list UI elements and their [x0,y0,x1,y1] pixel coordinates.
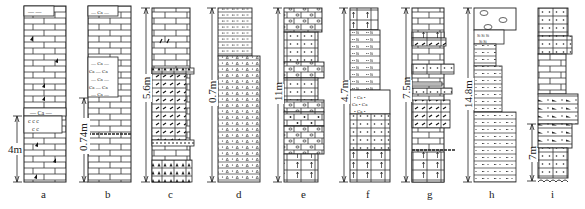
column-e: 11m e [272,8,324,200]
stratigraphic-diagram: •• Si — — — Ca — c c c c c 4m a [0,0,585,209]
column-c: 5.6m c [140,8,194,200]
svg-text:— Ca —: — Ca — [90,92,110,97]
scale-label-i: 7m [526,146,538,161]
column-label-i: i [551,188,554,200]
scale-label-h: 14.8m [462,80,474,108]
column-label-e: e [301,188,306,200]
column-label-a: a [41,188,46,200]
svg-text:c c c: c c c [28,118,39,124]
column-label-b: b [105,188,111,200]
scale-label-g: 7.5m [400,76,412,99]
column-label-f: f [366,188,370,200]
column-h: Si Si Si Si Si 14.8m h [462,8,516,200]
column-i: 7m i [526,8,578,200]
column-label-g: g [427,188,433,200]
svg-text:— —: — — [27,9,43,15]
scale-label-f: 4.7m [338,79,350,102]
svg-text:• Ca •: • Ca • [354,109,366,114]
column-b: — Ca — — Ca — Ca — Ca — Ca — Ca — Ca — C… [77,6,131,200]
svg-text:Ca — Ca: Ca — Ca [89,85,108,90]
svg-text:Si Si: Si Si [479,39,488,44]
svg-text:— Ca —: — Ca — [29,110,53,116]
column-label-h: h [489,188,495,200]
column-label-c: c [168,188,173,200]
svg-text:Si Si Si: Si Si Si [477,33,490,38]
svg-text:— Ca —: — Ca — [90,61,110,66]
scale-label-b: 0.74m [77,123,89,151]
svg-text:c c: c c [32,126,39,132]
svg-text:— Ca —: — Ca — [90,10,110,15]
svg-text:Ca • Ca: Ca • Ca [352,102,368,107]
column-a: — — — Ca — c c c c c 4m a [7,6,66,200]
column-label-d: d [236,188,242,200]
svg-text:— Ca —: — Ca — [90,77,110,82]
column-g: 7.5m g [400,8,455,200]
svg-text:• Ca •: • Ca • [354,95,366,100]
column-d: 0.7m d [206,8,260,200]
scale-label-a: 4m [8,143,23,155]
scale-label-c: 5.6m [140,76,152,99]
svg-text:Ca — Ca: Ca — Ca [89,69,108,74]
scale-label-d: 0.7m [206,80,218,103]
column-f: • Ca • Ca • Ca • Ca • 4.7m f [338,8,390,200]
scale-label-e: 11m [272,81,284,101]
